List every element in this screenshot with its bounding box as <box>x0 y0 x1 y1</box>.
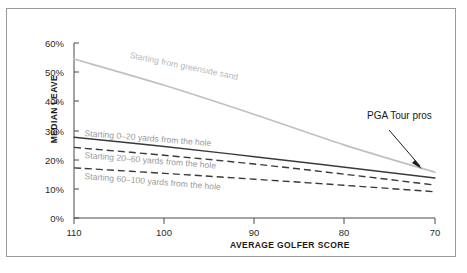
x-axis-title: AVERAGE GOLFER SCORE <box>140 240 440 250</box>
x-tick-label-90: 90 <box>234 227 274 238</box>
y-tick-label-30: 30% <box>26 126 64 137</box>
x-tick-label-100: 100 <box>144 227 184 238</box>
chart-figure: MEDIAN LEAVE AVERAGE GOLFER SCORE 60% 50… <box>0 0 467 273</box>
y-tick-label-10: 10% <box>26 184 64 195</box>
y-tick-label-40: 40% <box>26 96 64 107</box>
annotation-pga-tour-pros: PGA Tour pros <box>367 110 432 121</box>
y-tick-marks <box>74 43 79 218</box>
x-tick-label-80: 80 <box>324 227 364 238</box>
x-tick-marks <box>74 218 435 224</box>
y-tick-label-50: 50% <box>26 67 64 78</box>
x-tick-label-110: 110 <box>54 227 94 238</box>
x-tick-label-70: 70 <box>415 227 455 238</box>
y-tick-label-0: 0% <box>26 213 64 224</box>
y-tick-label-20: 20% <box>26 155 64 166</box>
y-tick-label-60: 60% <box>26 38 64 49</box>
